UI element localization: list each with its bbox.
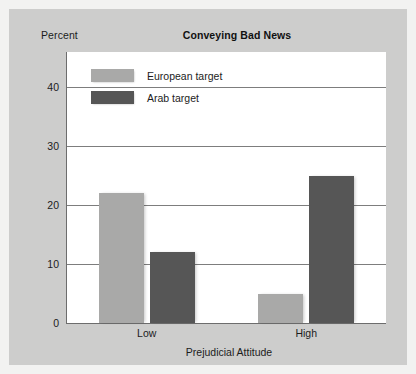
chart-title: Conveying Bad News (9, 29, 407, 41)
y-tick-label: 10 (47, 258, 59, 270)
y-axis-line (66, 52, 67, 323)
bar-low-arab (150, 252, 195, 323)
legend-label: European target (147, 70, 222, 82)
x-tick-label: High (295, 327, 317, 339)
x-tick-label: Low (137, 327, 156, 339)
y-tick-label: 30 (47, 140, 59, 152)
plot-area: European targetArab target (67, 52, 386, 323)
y-tick-label: 40 (47, 81, 59, 93)
legend-swatch-icon (91, 69, 134, 82)
bar-high-european (258, 294, 303, 323)
legend-item: Arab target (91, 88, 222, 107)
bar-high-arab (309, 176, 354, 323)
legend-label: Arab target (147, 92, 199, 104)
bar-low-european (99, 193, 144, 323)
chart-figure: Percent Conveying Bad News 010203040 Eur… (9, 9, 407, 365)
y-tick-label: 0 (53, 317, 59, 329)
y-axis-tick-labels: 010203040 (9, 52, 63, 323)
x-axis-line (66, 323, 386, 324)
x-axis-title: Prejudicial Attitude (9, 346, 407, 358)
chart-legend: European targetArab target (91, 66, 222, 110)
legend-swatch-icon (91, 91, 134, 104)
y-tick-label: 20 (47, 199, 59, 211)
gridline (67, 146, 386, 147)
legend-item: European target (91, 66, 222, 85)
